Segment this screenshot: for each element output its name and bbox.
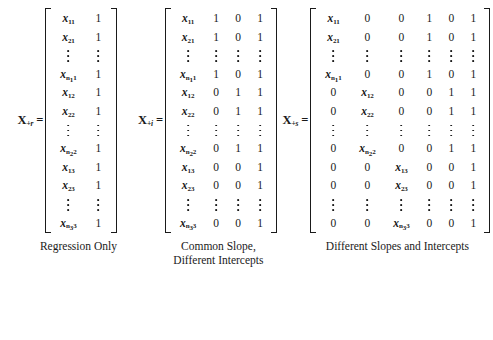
matrix-cell-variable: x12 xyxy=(171,83,205,102)
matrix-label-subscript: +i xyxy=(147,119,153,128)
vertical-ellipsis xyxy=(350,121,384,140)
matrix-cell-number: 1 xyxy=(462,214,484,233)
vertical-ellipsis xyxy=(85,46,111,65)
equals-sign-common-slope-different-intercepts: = xyxy=(156,113,165,128)
matrix-cell-number: 0 xyxy=(418,83,440,102)
vertical-ellipsis xyxy=(51,195,85,214)
matrix-cell-number: 0 xyxy=(350,28,384,47)
matrix-label-different-slopes-and-intercepts: X+s xyxy=(283,114,302,128)
matrix-cell-variable: xn33 xyxy=(384,214,418,233)
matrix-cell-number: 0 xyxy=(227,176,249,195)
caption-regression-only: Regression Only xyxy=(40,240,117,254)
vertical-ellipsis xyxy=(384,46,418,65)
vertical-ellipsis xyxy=(316,121,350,140)
matrix-cell-number: 0 xyxy=(418,158,440,177)
vertical-ellipsis xyxy=(227,121,249,140)
vertical-ellipsis xyxy=(205,121,227,140)
matrix-equation-different-slopes-and-intercepts: X+s=x1100101x2100101xn11001010x1200110x2… xyxy=(283,8,491,233)
matrix-cell-variable: x23 xyxy=(384,176,418,195)
right-bracket xyxy=(484,8,490,233)
matrix-cell-number: 0 xyxy=(440,28,462,47)
matrix-label-base: X xyxy=(18,113,27,127)
matrix-cell-number: 1 xyxy=(227,102,249,121)
matrix-cell-number: 0 xyxy=(227,158,249,177)
vertical-ellipsis xyxy=(440,195,462,214)
matrix-cell-variable: xn33 xyxy=(51,214,85,233)
matrix-cell-variable: x13 xyxy=(384,158,418,177)
matrix-cell-number: 0 xyxy=(440,65,462,84)
matrix-cell-number: 1 xyxy=(249,214,271,233)
matrix-cell-number: 0 xyxy=(384,102,418,121)
matrix-cell-number: 1 xyxy=(249,65,271,84)
vertical-ellipsis xyxy=(384,195,418,214)
matrix-cell-number: 1 xyxy=(205,65,227,84)
matrix-cell-variable: xn22 xyxy=(171,139,205,158)
matrix-cell-number: 0 xyxy=(384,65,418,84)
matrix-cell-number: 1 xyxy=(85,28,111,47)
matrix-cell-number: 1 xyxy=(205,28,227,47)
matrix-cell-number: 1 xyxy=(462,158,484,177)
vertical-ellipsis xyxy=(249,121,271,140)
matrix-cell-number: 0 xyxy=(205,158,227,177)
matrix-cell-variable: x21 xyxy=(316,28,350,47)
matrix-cell-number: 0 xyxy=(384,139,418,158)
matrix-cell-number: 0 xyxy=(418,139,440,158)
vertical-ellipsis xyxy=(418,46,440,65)
vertical-ellipsis xyxy=(440,121,462,140)
matrix-grid: x11101x21101xn11101x12011x22011xn22011x1… xyxy=(171,8,271,233)
matrix-cell-number: 1 xyxy=(227,83,249,102)
matrix-cell-number: 0 xyxy=(227,28,249,47)
matrix-cell-number: 1 xyxy=(85,83,111,102)
vertical-ellipsis xyxy=(418,195,440,214)
matrix-grid: x111x211xn111x121x221xn221x131x231xn331 xyxy=(51,8,111,233)
vertical-ellipsis xyxy=(462,46,484,65)
caption-common-slope-different-intercepts: Common Slope, Different Intercepts xyxy=(173,240,263,267)
matrix-cell-number: 1 xyxy=(418,9,440,28)
matrix-regression-only: x111x211xn111x121x221xn221x131x231xn331 xyxy=(45,8,117,233)
vertical-ellipsis xyxy=(316,195,350,214)
matrix-cell-variable: xn33 xyxy=(171,214,205,233)
matrix-cell-variable: x12 xyxy=(51,83,85,102)
matrix-cell-variable: x21 xyxy=(171,28,205,47)
caption-different-slopes-and-intercepts: Different Slopes and Intercepts xyxy=(326,240,469,254)
right-bracket xyxy=(271,8,277,233)
matrix-label-common-slope-different-intercepts: X+i xyxy=(138,114,156,128)
matrix-label-subscript: +s xyxy=(292,119,299,128)
matrix-cell-number: 0 xyxy=(418,214,440,233)
matrix-cell-number: 1 xyxy=(418,65,440,84)
matrix-cell-variable: xn22 xyxy=(51,139,85,158)
equals-sign-different-slopes-and-intercepts: = xyxy=(301,113,310,128)
matrix-cell-number: 0 xyxy=(384,28,418,47)
matrix-panel-regression-only: X+r=x111x211xn111x121x221xn221x131x231xn… xyxy=(0,8,135,254)
matrix-cell-number: 1 xyxy=(440,102,462,121)
matrix-cell-number: 1 xyxy=(462,9,484,28)
matrix-cell-variable: x23 xyxy=(51,176,85,195)
matrix-cell-variable: x11 xyxy=(51,9,85,28)
matrix-cell-number: 0 xyxy=(350,65,384,84)
matrix-cell-number: 1 xyxy=(462,102,484,121)
matrix-cell-number: 0 xyxy=(316,158,350,177)
vertical-ellipsis xyxy=(350,46,384,65)
matrix-cell-number: 1 xyxy=(205,9,227,28)
right-bracket xyxy=(111,8,117,233)
matrix-cell-number: 0 xyxy=(316,214,350,233)
matrix-cell-number: 1 xyxy=(249,102,271,121)
matrix-cell-number: 0 xyxy=(316,176,350,195)
matrix-cell-number: 1 xyxy=(462,83,484,102)
matrix-cell-number: 0 xyxy=(440,9,462,28)
matrix-cell-number: 0 xyxy=(418,176,440,195)
matrix-cell-number: 1 xyxy=(249,28,271,47)
matrix-cell-variable: xn11 xyxy=(316,65,350,84)
matrix-cell-number: 0 xyxy=(205,102,227,121)
matrix-label-subscript: +r xyxy=(27,119,34,128)
vertical-ellipsis xyxy=(350,195,384,214)
matrix-cell-number: 0 xyxy=(205,214,227,233)
matrix-cell-variable: x11 xyxy=(171,9,205,28)
matrix-cell-number: 1 xyxy=(85,9,111,28)
matrix-cell-number: 0 xyxy=(384,83,418,102)
vertical-ellipsis xyxy=(462,195,484,214)
matrix-cell-variable: x22 xyxy=(350,102,384,121)
vertical-ellipsis xyxy=(227,46,249,65)
matrix-panel-different-slopes-and-intercepts: X+s=x1100101x2100101xn11001010x1200110x2… xyxy=(280,8,493,254)
matrix-cell-number: 1 xyxy=(249,139,271,158)
